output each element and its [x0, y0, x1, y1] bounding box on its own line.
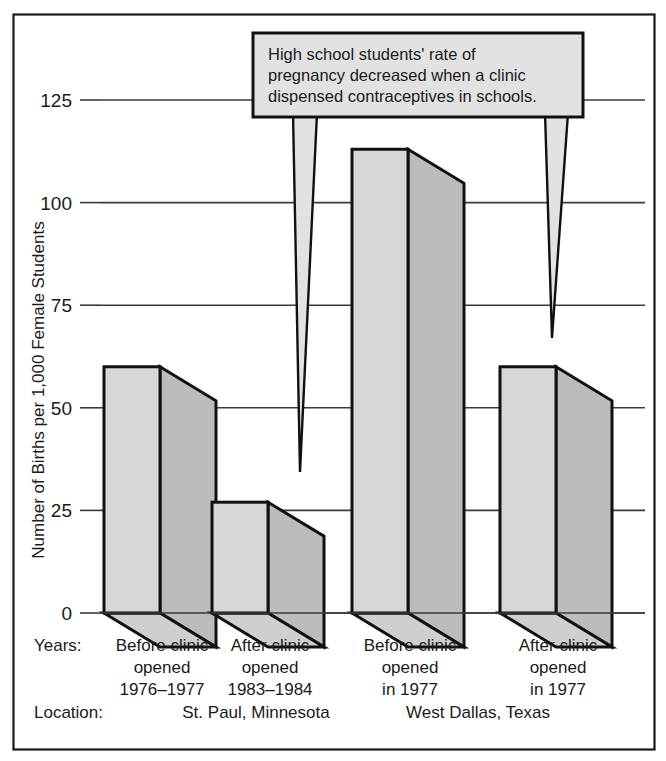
location-label-west-dallas: West Dallas, Texas — [406, 703, 550, 722]
bar-3 — [352, 149, 464, 647]
chart-canvas: 0255075100125 High school students' rate… — [0, 0, 666, 761]
bar-side-face — [556, 367, 612, 647]
bar-4 — [500, 367, 612, 647]
category-label-2-line-2: opened — [242, 658, 299, 677]
category-label-3-line-2: opened — [382, 658, 439, 677]
category-label-2-line-3: 1983–1984 — [227, 680, 312, 699]
chart-figure: 0255075100125 High school students' rate… — [0, 0, 666, 761]
callout-line-1: High school students' rate of — [268, 45, 476, 63]
category-label-1-line-1: Before clinic — [116, 636, 209, 655]
category-label-1-line-2: opened — [134, 658, 191, 677]
y-tick-label-0: 0 — [61, 603, 72, 624]
y-tick-label-125: 125 — [40, 90, 72, 111]
bar-front-face — [212, 502, 268, 613]
y-tick-label-50: 50 — [51, 398, 72, 419]
bar-side-face — [408, 149, 464, 647]
category-label-3-line-1: Before clinic — [364, 636, 457, 655]
category-label-4-line-3: in 1977 — [530, 680, 586, 699]
category-label-3-line-3: in 1977 — [382, 680, 438, 699]
y-axis-title: Number of Births per 1,000 Female Studen… — [29, 221, 48, 558]
y-tick-label-75: 75 — [51, 295, 72, 316]
category-label-4-line-2: opened — [530, 658, 587, 677]
y-tick-label-100: 100 — [40, 193, 72, 214]
callout-line-3: dispensed contraceptives in schools. — [268, 87, 537, 105]
bar-front-face — [352, 149, 408, 613]
years-row-label: Years: — [34, 636, 82, 655]
category-label-4-line-1: After clinic — [519, 636, 598, 655]
callout-line-2: pregnancy decreased when a clinic — [268, 66, 526, 84]
location-label-st-paul: St. Paul, Minnesota — [182, 703, 330, 722]
bar-1 — [104, 367, 216, 647]
y-tick-label-25: 25 — [51, 500, 72, 521]
bar-front-face — [104, 367, 160, 613]
bar-side-face — [160, 367, 216, 647]
location-row-label: Location: — [34, 703, 103, 722]
category-label-1-line-3: 1976–1977 — [119, 680, 204, 699]
category-label-2-line-1: After clinic — [231, 636, 310, 655]
bar-front-face — [500, 367, 556, 613]
